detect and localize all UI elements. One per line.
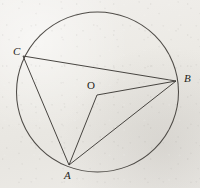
segment-ob: [97, 81, 176, 95]
point-label-b: B: [184, 73, 191, 84]
segment-ab: [69, 81, 176, 165]
chord-group: [23, 56, 176, 165]
segment-ca: [23, 56, 69, 165]
geometry-figure: C B A O: [0, 0, 200, 188]
main-circle: [17, 12, 179, 172]
geometry-canvas: [0, 0, 200, 188]
circle-group: [17, 12, 179, 172]
segment-cb: [23, 56, 176, 81]
point-label-o: O: [87, 80, 95, 91]
point-label-c: C: [13, 46, 21, 57]
point-label-a: A: [64, 170, 71, 181]
